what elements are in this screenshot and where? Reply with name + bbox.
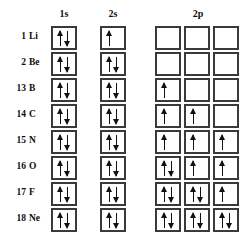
- arrow-group: [53, 132, 75, 152]
- arrow-head: [113, 223, 119, 229]
- arrow-group: [186, 106, 208, 126]
- arrow-head: [106, 134, 112, 140]
- up-arrow-icon: [57, 212, 64, 229]
- arrow-head: [190, 160, 196, 166]
- arrow-group: [102, 184, 124, 204]
- orbital-box-2p-0: [155, 130, 181, 154]
- up-arrow-icon: [106, 160, 113, 177]
- arrow-head: [190, 134, 196, 140]
- up-arrow-icon: [106, 186, 113, 203]
- up-arrow-icon: [161, 134, 168, 151]
- orbital-box-2p-1: [184, 52, 210, 76]
- element-symbol: Li: [29, 30, 49, 42]
- arrow-head: [57, 56, 63, 62]
- arrow-group: [157, 106, 179, 126]
- column-header-2s: 2s: [100, 8, 126, 20]
- down-arrow-icon: [197, 186, 204, 203]
- orbital-box-1s: [51, 130, 77, 154]
- arrow-group: [102, 28, 124, 48]
- up-arrow-icon: [57, 30, 64, 47]
- up-arrow-icon: [106, 212, 113, 229]
- arrow-head: [161, 160, 167, 166]
- arrow-group: [102, 210, 124, 230]
- down-arrow-icon: [113, 82, 120, 99]
- arrow-group: [102, 106, 124, 126]
- up-arrow-icon: [106, 56, 113, 73]
- arrow-group: [53, 210, 75, 230]
- orbital-box-2p-1: [184, 26, 210, 50]
- arrow-head: [106, 82, 112, 88]
- arrow-head: [168, 197, 174, 203]
- arrow-group: [215, 210, 237, 230]
- orbital-box-2s: [100, 130, 126, 154]
- element-row: 16O: [0, 156, 243, 178]
- arrow-head: [219, 160, 225, 166]
- arrow-group: [186, 80, 208, 100]
- orbital-box-2p-2: [213, 156, 239, 180]
- arrow-group: [215, 158, 237, 178]
- up-arrow-icon: [57, 134, 64, 151]
- orbital-box-2p-0: [155, 26, 181, 50]
- up-arrow-icon: [106, 30, 113, 47]
- orbital-diagram: 1s 2s 2p 1Li2Be13B14C15N16O17F18Ne: [0, 0, 243, 241]
- orbital-box-2p-2: [213, 208, 239, 232]
- up-arrow-icon: [161, 186, 168, 203]
- arrow-head: [190, 186, 196, 192]
- up-arrow-icon: [219, 160, 226, 177]
- arrow-head: [168, 171, 174, 177]
- element-row: 17F: [0, 182, 243, 204]
- up-arrow-icon: [219, 212, 226, 229]
- arrow-head: [219, 212, 225, 218]
- up-arrow-icon: [190, 134, 197, 151]
- orbital-box-1s: [51, 182, 77, 206]
- down-arrow-icon: [168, 186, 175, 203]
- group-number: 14: [0, 108, 26, 120]
- arrow-group: [102, 158, 124, 178]
- arrow-group: [186, 158, 208, 178]
- orbital-box-1s: [51, 104, 77, 128]
- element-row: 13B: [0, 78, 243, 100]
- down-arrow-icon: [64, 186, 71, 203]
- arrow-head: [113, 145, 119, 151]
- arrow-head: [113, 119, 119, 125]
- arrow-head: [57, 212, 63, 218]
- up-arrow-icon: [219, 134, 226, 151]
- arrow-head: [113, 171, 119, 177]
- element-symbol: O: [29, 160, 49, 172]
- arrow-head: [161, 186, 167, 192]
- arrow-head: [197, 197, 203, 203]
- arrow-group: [157, 80, 179, 100]
- arrow-head: [64, 197, 70, 203]
- arrow-head: [113, 67, 119, 73]
- down-arrow-icon: [64, 30, 71, 47]
- arrow-head: [190, 108, 196, 114]
- element-symbol: F: [29, 186, 49, 198]
- down-arrow-icon: [64, 134, 71, 151]
- orbital-box-2p-0: [155, 104, 181, 128]
- arrow-head: [219, 134, 225, 140]
- down-arrow-icon: [113, 212, 120, 229]
- element-symbol: Be: [29, 56, 49, 68]
- down-arrow-icon: [168, 160, 175, 177]
- up-arrow-icon: [161, 82, 168, 99]
- up-arrow-icon: [161, 108, 168, 125]
- group-number: 17: [0, 186, 26, 198]
- arrow-head: [168, 223, 174, 229]
- arrow-group: [215, 80, 237, 100]
- orbital-box-2p-1: [184, 104, 210, 128]
- arrow-group: [53, 80, 75, 100]
- orbital-box-2p-2: [213, 182, 239, 206]
- group-number: 13: [0, 82, 26, 94]
- arrow-head: [64, 67, 70, 73]
- arrow-group: [157, 132, 179, 152]
- arrow-group: [102, 132, 124, 152]
- orbital-box-2s: [100, 156, 126, 180]
- arrow-group: [215, 132, 237, 152]
- orbital-box-1s: [51, 208, 77, 232]
- down-arrow-icon: [113, 134, 120, 151]
- up-arrow-icon: [106, 108, 113, 125]
- down-arrow-icon: [113, 56, 120, 73]
- arrow-group: [157, 184, 179, 204]
- arrow-head: [161, 212, 167, 218]
- group-number: 16: [0, 160, 26, 172]
